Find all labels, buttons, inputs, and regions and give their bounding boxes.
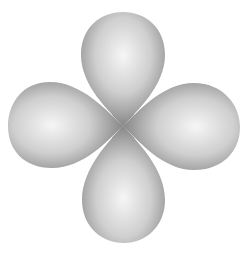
cloverleaf-orbital-graphic [0, 0, 243, 254]
orbital-figure [0, 0, 243, 254]
